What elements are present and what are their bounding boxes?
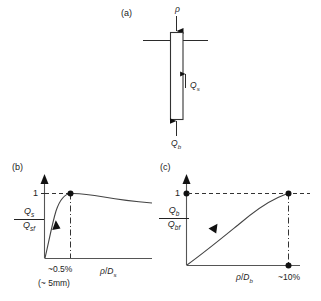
chart-c-curve (187, 194, 289, 266)
chart-c-ultimate-strain-annotation: ~10% (278, 272, 300, 282)
chart-c-plateau-point (286, 191, 292, 197)
chart-c-x-axis-label: ρ/Db (236, 272, 253, 284)
chart-c-xaxis-point (286, 263, 292, 269)
chart-c-svg (0, 0, 321, 301)
chart-c-direction-marker (209, 224, 218, 234)
chart-c-y-axis-label: Qb Qbf (159, 206, 189, 231)
chart-c-ylabel-numerator: Qb (159, 206, 189, 218)
chart-c-ytick-label: 1 (175, 188, 180, 198)
figure-root: (a) ρ (0, 0, 321, 301)
chart-c-ylabel-denominator: Qbf (159, 220, 189, 232)
